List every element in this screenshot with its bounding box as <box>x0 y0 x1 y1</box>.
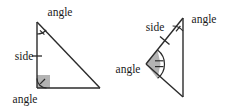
left-triangle-right-angle-square <box>37 75 50 88</box>
left-triangle-bottom-angle-label: angle <box>13 93 38 106</box>
right-triangle-side-label: side <box>146 21 165 33</box>
triangle-diagram-canvas: angle side angle angle side angle <box>0 0 226 109</box>
left-triangle-side-label: side <box>15 50 34 62</box>
figure-container: angle side angle angle side angle <box>0 0 226 109</box>
left-triangle-top-angle-label: angle <box>48 6 73 19</box>
right-triangle-top-angle-label: angle <box>192 13 217 26</box>
right-triangle-left-angle-label: angle <box>116 63 141 76</box>
